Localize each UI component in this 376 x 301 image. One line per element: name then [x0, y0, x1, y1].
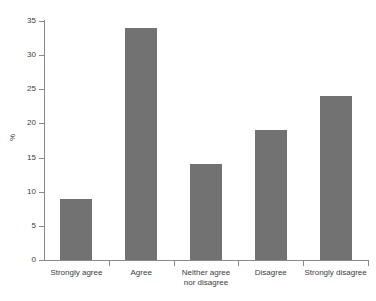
y-axis-tick	[39, 89, 44, 90]
y-axis-tick	[39, 21, 44, 22]
y-axis-tick-label: 15	[18, 154, 36, 162]
x-axis-tick	[109, 261, 110, 266]
y-axis-tick-label: 25	[18, 85, 36, 93]
y-axis-tick-label: 35	[18, 17, 36, 25]
y-axis-tick	[39, 226, 44, 227]
bar	[190, 164, 222, 260]
bar	[60, 199, 92, 260]
y-axis-tick	[39, 123, 44, 124]
x-axis-tick	[303, 261, 304, 266]
y-axis-tick-label: 20	[18, 119, 36, 127]
y-axis-tick	[39, 55, 44, 56]
y-axis-tick-label: 5	[18, 222, 36, 230]
x-axis-tick	[238, 261, 239, 266]
y-axis-title: %	[8, 134, 17, 141]
y-axis-tick-label: 30	[18, 51, 36, 59]
y-axis-tick-label: 10	[18, 188, 36, 196]
bar	[255, 130, 287, 260]
x-axis-tick	[368, 261, 369, 266]
x-axis-line	[44, 260, 369, 261]
y-axis-tick	[39, 260, 44, 261]
bar	[320, 96, 352, 260]
y-axis-tick-label: 0	[18, 256, 36, 264]
y-axis-tick	[39, 192, 44, 193]
bar-chart: % 05101520253035 Strongly agreeAgreeNeit…	[0, 0, 376, 301]
bar	[125, 28, 157, 260]
y-axis-line	[44, 20, 45, 261]
x-axis-tick	[174, 261, 175, 266]
y-axis-tick	[39, 158, 44, 159]
x-axis-category-label: Strongly disagree	[297, 268, 374, 278]
